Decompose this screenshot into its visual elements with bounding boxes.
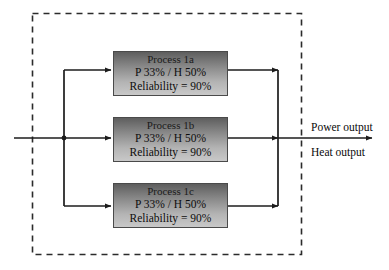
process-1c-reliability: Reliability = 90% (130, 212, 212, 226)
process-1a-spec: P 33% / H 50% (135, 66, 206, 80)
process-1c-title: Process 1c (147, 185, 194, 198)
process-1b-spec: P 33% / H 50% (135, 132, 206, 146)
process-1c-spec: P 33% / H 50% (135, 198, 206, 212)
heat-output-label: Heat output (311, 147, 365, 159)
process-box-1a[interactable]: Process 1a P 33% / H 50% Reliability = 9… (113, 51, 228, 96)
process-1a-reliability: Reliability = 90% (130, 80, 212, 94)
process-1b-reliability: Reliability = 90% (130, 146, 212, 160)
process-1a-title: Process 1a (147, 53, 194, 66)
process-1b-title: Process 1b (147, 119, 194, 132)
process-box-1b[interactable]: Process 1b P 33% / H 50% Reliability = 9… (113, 117, 228, 162)
diagram-canvas: Process 1a P 33% / H 50% Reliability = 9… (0, 0, 389, 270)
process-box-1c[interactable]: Process 1c P 33% / H 50% Reliability = 9… (113, 183, 228, 228)
power-output-label: Power output (311, 122, 373, 134)
